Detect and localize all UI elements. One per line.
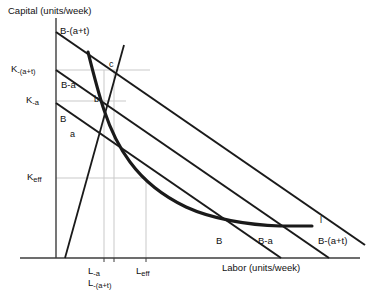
- gridlines-group: [56, 70, 150, 258]
- point-label-b: b: [94, 95, 99, 104]
- x-tick-label-l-a-t: L-(a+t): [88, 278, 111, 288]
- budget-line-b-a-t: [56, 32, 365, 245]
- y-tick-k-eff-sub: eff: [33, 175, 41, 184]
- line-label-b-a-t-upper: B-(a+t): [60, 26, 89, 36]
- y-axis-title: Capital (units/week): [8, 6, 91, 16]
- line-label-b-a-t-lower: B-(a+t): [318, 236, 347, 246]
- line-label-b-a-lower: B-a: [258, 236, 273, 246]
- point-label-a: a: [70, 130, 75, 139]
- x-tick-l-eff-sub: eff: [141, 269, 149, 278]
- y-tick-k-a-sub: -a: [32, 98, 39, 107]
- point-label-l: l: [320, 216, 322, 225]
- y-tick-label-k-a: K-a: [26, 95, 39, 105]
- y-tick-k-a-t-sub: -(a+t): [17, 67, 35, 76]
- line-label-b-a-upper: B-a: [61, 80, 76, 90]
- point-label-c: c: [109, 60, 114, 69]
- x-tick-l-a-t-sub: -(a+t): [93, 281, 111, 290]
- x-tick-label-l-a: L-a: [88, 266, 100, 276]
- y-tick-label-k-eff: Keff: [27, 172, 42, 182]
- x-axis-title: Labor (units/week): [222, 263, 300, 273]
- plot-canvas: [0, 0, 366, 301]
- line-label-b-upper: B: [60, 114, 66, 124]
- y-tick-label-k-a-t: K-(a+t): [11, 64, 35, 74]
- isoquant-diagram: Capital (units/week) Labor (units/week) …: [0, 0, 366, 301]
- budget-line-b: [56, 103, 281, 258]
- budget-lines-group: [56, 32, 365, 258]
- x-tick-label-l-eff: Leff: [136, 266, 150, 276]
- x-tick-l-a-sub: -a: [93, 269, 100, 278]
- line-label-b-lower: B: [216, 236, 222, 246]
